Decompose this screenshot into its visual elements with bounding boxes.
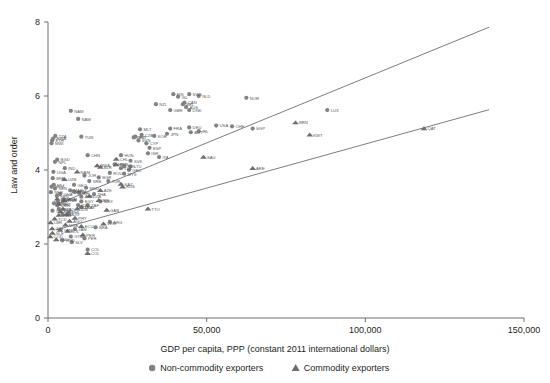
data-point-label: GBR — [174, 108, 183, 113]
data-point-label: DNK — [193, 108, 202, 113]
data-point-label: BLR — [104, 165, 112, 170]
data-point-label: NAM — [74, 109, 84, 114]
data-point — [171, 92, 175, 96]
data-point — [251, 126, 255, 130]
data-point-label: CHN — [91, 153, 100, 158]
data-point — [53, 160, 57, 164]
data-point-label: BRN — [299, 120, 308, 125]
data-point-label: EGY — [85, 199, 94, 204]
data-point-label: MWI — [55, 141, 64, 146]
data-point — [76, 117, 80, 121]
data-point-label: SRB — [93, 179, 102, 184]
data-point-label: TTO — [151, 207, 160, 212]
data-point-label: BGR — [102, 175, 111, 180]
data-point — [168, 108, 172, 112]
legend-label: Non-commodity exporters — [160, 363, 264, 373]
data-point-label: IRN — [102, 198, 109, 203]
data-point-label: AGO — [73, 219, 83, 224]
data-point — [230, 124, 234, 128]
data-point-label: NPL — [58, 160, 67, 165]
x-axis-title: GDP per capita, PPP (constant 2011 inter… — [160, 344, 389, 354]
data-point-label: BEL — [186, 102, 195, 107]
data-point — [146, 151, 150, 155]
data-point — [51, 170, 55, 174]
data-point-label: IND — [68, 166, 75, 171]
data-point — [86, 153, 90, 157]
data-point — [244, 96, 248, 100]
x-tick-label: 150,000 — [508, 325, 541, 335]
data-point — [122, 172, 126, 176]
data-point — [49, 190, 53, 194]
data-point — [168, 126, 172, 130]
data-point — [154, 102, 158, 106]
data-point-label: CHL — [120, 157, 129, 162]
data-point-label: PER — [86, 233, 95, 238]
data-point — [87, 179, 91, 183]
data-point-label: AZE — [104, 188, 112, 193]
y-tick-label: 8 — [35, 17, 40, 27]
data-point — [69, 109, 73, 113]
data-point-label: SVK — [134, 159, 143, 164]
data-point-label: NLD — [202, 94, 210, 99]
y-axis-title: Law and order — [9, 136, 19, 194]
data-point — [138, 127, 142, 131]
data-point-label: COL — [91, 251, 100, 256]
data-point — [214, 124, 218, 128]
data-point-label: ROU — [113, 171, 122, 176]
data-point-label: JPN — [170, 132, 178, 137]
x-tick-label: 50,000 — [193, 325, 221, 335]
data-point-label: KWT — [313, 133, 323, 138]
data-point — [72, 183, 76, 187]
legend-circle-icon — [149, 365, 155, 371]
data-point-label: NAM — [82, 117, 92, 122]
data-point-label: GEO — [77, 183, 87, 188]
y-tick-label: 4 — [35, 165, 40, 175]
chart-canvas: 050,000100,000150,00002468 NAMNAMTZAETHR… — [0, 0, 550, 383]
data-point-label: LTU — [134, 164, 142, 169]
data-point — [147, 146, 151, 150]
data-point-label: ARE — [256, 166, 265, 171]
data-point-label: ESP — [153, 146, 162, 151]
data-point-label: QAT — [427, 126, 436, 131]
data-point-label: ECU — [85, 224, 94, 229]
data-point-label: MLT — [143, 127, 152, 132]
data-point-label: USA — [220, 123, 229, 128]
data-point-label: PNG — [60, 237, 69, 242]
data-point-label: SLV — [75, 240, 83, 245]
data-point-label: GTM — [74, 234, 84, 239]
data-point — [79, 135, 83, 139]
data-point-label: KOR — [158, 134, 167, 139]
data-point-label: SWE — [193, 92, 203, 97]
data-point-label: LBR — [54, 220, 62, 225]
data-point-label: GAB — [110, 208, 119, 213]
scatter-chart: 050,000100,000150,00002468 NAMNAMTZAETHR… — [0, 0, 550, 383]
data-point-label: YEM — [63, 228, 73, 233]
data-point-label: TUN — [85, 135, 94, 140]
data-point-label: IRL — [202, 129, 209, 134]
data-point-label: DZA — [93, 194, 102, 199]
data-point-label: KAZ — [124, 182, 133, 187]
x-tick-label: 100,000 — [349, 325, 382, 335]
data-point-label: VNM — [67, 198, 77, 203]
legend-label: Commodity exporters — [304, 363, 390, 373]
data-point-label: NZL — [159, 102, 168, 107]
data-point — [50, 209, 54, 213]
data-point — [325, 108, 329, 112]
data-point — [51, 176, 55, 180]
data-point-label: BIH — [82, 191, 89, 196]
data-point-label: LAO — [66, 207, 75, 212]
data-point-label: NOR — [250, 96, 259, 101]
data-point-label: RUS — [120, 162, 129, 167]
data-point — [128, 159, 132, 163]
data-point — [49, 141, 53, 145]
data-point — [189, 130, 193, 134]
data-point-label: FIN — [177, 92, 184, 97]
data-point-label: NAM — [81, 170, 91, 175]
data-point-label: AUT — [194, 130, 203, 135]
data-point-label: TUR — [112, 179, 121, 184]
data-point — [181, 102, 185, 106]
data-point-label: CHE — [235, 124, 244, 129]
data-point — [94, 225, 98, 229]
data-point-label: BFA — [56, 176, 64, 181]
data-point — [132, 135, 136, 139]
